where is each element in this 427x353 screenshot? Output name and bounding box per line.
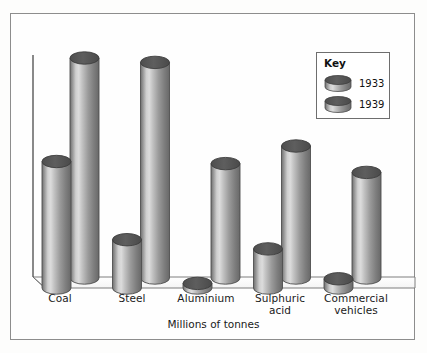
legend-swatch-icon [323, 96, 353, 114]
bar-1939-aluminium[interactable] [211, 157, 240, 284]
bar-1933-coal[interactable] [42, 155, 71, 294]
legend-item-1933[interactable]: 1933 [323, 74, 389, 94]
bar-1933-steel[interactable] [113, 234, 142, 295]
legend-item-1939[interactable]: 1939 [323, 95, 389, 115]
x-axis-title: Millions of tonnes [0, 318, 427, 330]
legend-label-1939: 1939 [359, 99, 384, 110]
x-tick-label-2: Aluminium [166, 293, 246, 305]
legend-swatch-icon [323, 75, 353, 93]
legend-label-1933: 1933 [359, 78, 384, 89]
bar-1939-sulphuric-acid[interactable] [282, 140, 311, 284]
legend-title: Key [324, 57, 346, 69]
plot-area: Coal Steel Aluminium Sulphuric acid Comm… [0, 0, 427, 353]
x-tick-label-1: Steel [96, 293, 168, 305]
bar-1939-steel[interactable] [141, 56, 170, 284]
bar-1939-coal[interactable] [70, 52, 99, 284]
legend-box: Key 1933 1939 [316, 52, 390, 119]
x-tick-label-3: Sulphuric acid [243, 293, 317, 316]
bar-1939-commercial-vehicles[interactable] [352, 166, 381, 284]
x-tick-label-4: Commercial vehicles [313, 293, 399, 316]
bar-1933-sulphuric-acid[interactable] [254, 243, 283, 295]
x-tick-label-0: Coal [24, 293, 96, 305]
chart-page: Coal Steel Aluminium Sulphuric acid Comm… [0, 0, 427, 353]
bar-1933-commercial-vehicles[interactable] [324, 273, 353, 295]
